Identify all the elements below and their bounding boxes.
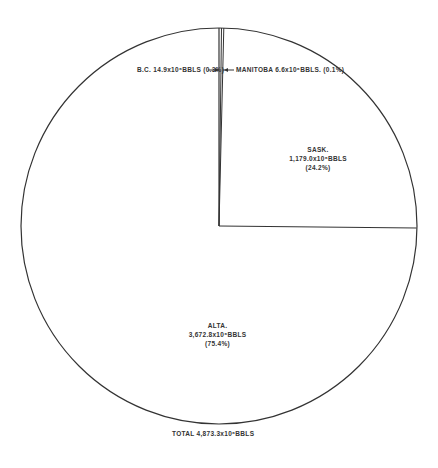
label-alta: ALTA. 3,672.8x10⁶BBLS (75.4%)	[175, 321, 260, 348]
label-sask-name: SASK.	[278, 145, 358, 154]
label-total: TOTAL 4,873.3x10⁶BBLS	[172, 429, 254, 438]
label-sask-value: 1,179.0x10⁶BBLS	[278, 154, 358, 163]
label-manitoba: MANITOBA 6.6x10⁶BBLS. (0.1%)	[236, 65, 344, 74]
label-bc: B.C. 14.9x10⁶BBLS (0.3%)	[137, 65, 224, 74]
label-alta-value: 3,672.8x10⁶BBLS	[175, 330, 260, 339]
label-alta-name: ALTA.	[175, 321, 260, 330]
label-sask: SASK. 1,179.0x10⁶BBLS (24.2%)	[278, 145, 358, 172]
label-sask-percent: (24.2%)	[278, 163, 358, 172]
label-alta-percent: (75.4%)	[175, 339, 260, 348]
